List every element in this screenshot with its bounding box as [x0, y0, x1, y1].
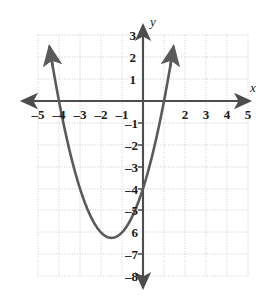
- x-tick-4: 4: [224, 107, 231, 122]
- x-tick-3: 3: [203, 107, 210, 122]
- parabola-curve: [50, 47, 174, 238]
- y-tick-labels: 3 2 1 –1 –2 –3 –4 –5 6 –7 –8: [124, 28, 139, 284]
- parabola-curve-visible: [50, 38, 173, 235]
- y-tick--7: –7: [124, 247, 139, 262]
- x-tick-2: 2: [182, 107, 189, 122]
- x-tick-5: 5: [245, 107, 252, 122]
- y-tick--6: 6: [132, 225, 139, 240]
- y-axis-label: y: [148, 14, 156, 29]
- graph-figure: –5 –4 –3 –2 –1 2 3 4 5 3 2 1 –1 –2 –3 –4…: [0, 0, 265, 301]
- x-tick--2: –2: [94, 107, 108, 122]
- y-tick--4: –4: [124, 182, 139, 197]
- y-tick--3: –3: [124, 160, 139, 175]
- x-tick--3: –3: [73, 107, 88, 122]
- y-tick-3: 3: [130, 28, 137, 43]
- y-tick-1: 1: [130, 72, 137, 87]
- x-tick-labels: –5 –4 –3 –2 –1 2 3 4 5: [31, 107, 252, 122]
- y-tick--5: –5: [124, 203, 139, 218]
- y-tick--1: –1: [124, 116, 138, 131]
- y-tick--2: –2: [124, 138, 138, 153]
- y-tick-2: 2: [130, 50, 137, 65]
- parabola-path-main: [50, 38, 173, 235]
- coordinate-plane-svg: –5 –4 –3 –2 –1 2 3 4 5 3 2 1 –1 –2 –3 –4…: [0, 0, 265, 301]
- x-tick--4: –4: [52, 107, 67, 122]
- x-tick--5: –5: [31, 107, 46, 122]
- parabola-curve-group: [50, 47, 174, 238]
- y-tick--8: –8: [124, 269, 139, 284]
- parabola-right-arrowhead: [170, 47, 173, 66]
- x-axis-label: x: [249, 80, 256, 95]
- parabola-left-arrowhead: [50, 47, 53, 66]
